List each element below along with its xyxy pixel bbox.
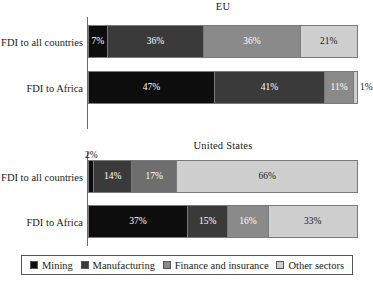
segment-value-label: 37%	[129, 217, 146, 227]
panel-title-united-states: United States	[88, 140, 358, 151]
legend-label-manufacturing: Manufacturing	[93, 260, 155, 271]
segment-value-label: 36%	[243, 37, 260, 47]
segment-value-label: 66%	[258, 172, 275, 182]
panel-eu: EU FDI to all countries 7% 36% 36% 21%	[0, 0, 371, 140]
segment-value-label: 17%	[145, 172, 162, 182]
legend-item-finance-and-insurance[interactable]: Finance and insurance	[163, 260, 269, 271]
segment-value-label: 1%	[360, 83, 373, 93]
segment-manufacturing[interactable]: 36%	[108, 26, 204, 57]
category-label-eu-africa: FDI to Africa	[26, 72, 89, 105]
segment-value-label: 33%	[304, 217, 321, 227]
segment-value-label: 21%	[320, 37, 337, 47]
segment-finance-and-insurance[interactable]: 17%	[132, 161, 178, 192]
segment-value-label: 2%	[85, 151, 98, 161]
segment-value-label: 7%	[92, 37, 105, 47]
segment-manufacturing[interactable]: 41%	[215, 72, 325, 103]
panel-united-states: United States FDI to all countries 2% 14…	[0, 140, 371, 245]
segment-mining[interactable]: 7%	[89, 26, 108, 57]
segment-mining[interactable]: 47%	[89, 72, 215, 103]
legend-item-mining[interactable]: Mining	[30, 260, 73, 271]
category-label-us-africa: FDI to Africa	[26, 206, 89, 239]
bar-row-eu-all-countries: FDI to all countries 7% 36% 36% 21%	[0, 25, 371, 58]
legend-item-manufacturing[interactable]: Manufacturing	[81, 260, 155, 271]
category-label-us-all-countries: FDI to all countries	[1, 161, 89, 194]
segment-manufacturing[interactable]: 14%	[94, 161, 132, 192]
segment-value-label: 47%	[143, 83, 160, 93]
panel-title-eu: EU	[88, 1, 358, 12]
bar-us-all-countries[interactable]: FDI to all countries 2% 14% 17% 66%	[88, 160, 358, 193]
bar-us-africa[interactable]: FDI to Africa 37% 15% 16% 33%	[88, 205, 358, 238]
bar-row-eu-africa: FDI to Africa 47% 41% 11% 1%	[0, 71, 371, 104]
segment-other-sectors[interactable]: 21%	[301, 26, 357, 57]
legend-label-mining: Mining	[42, 260, 73, 271]
legend-swatch-other-sectors-icon	[276, 261, 284, 269]
segment-value-label: 14%	[104, 172, 121, 182]
segment-manufacturing[interactable]: 15%	[188, 206, 228, 237]
segment-value-label: 15%	[199, 217, 216, 227]
bar-eu-all-countries[interactable]: FDI to all countries 7% 36% 36% 21%	[88, 25, 358, 58]
segment-value-label: 36%	[147, 37, 164, 47]
segment-finance-and-insurance[interactable]: 11%	[325, 72, 354, 103]
segment-finance-and-insurance[interactable]: 36%	[204, 26, 300, 57]
segment-other-sectors[interactable]: 33%	[269, 206, 357, 237]
segment-value-label: 11%	[331, 83, 348, 93]
segment-finance-and-insurance[interactable]: 16%	[228, 206, 268, 237]
segment-other-sectors[interactable]: 66%	[177, 161, 357, 192]
category-label-eu-all-countries: FDI to all countries	[1, 26, 89, 59]
legend-swatch-manufacturing-icon	[81, 261, 89, 269]
segment-value-label: 41%	[261, 83, 278, 93]
bar-eu-africa[interactable]: FDI to Africa 47% 41% 11% 1%	[88, 71, 358, 104]
segment-mining[interactable]: 37%	[89, 206, 188, 237]
segment-other-sectors[interactable]: 1%	[354, 72, 357, 103]
legend-swatch-mining-icon	[30, 261, 38, 269]
legend-label-finance-and-insurance: Finance and insurance	[175, 260, 269, 271]
legend-label-other-sectors: Other sectors	[288, 260, 344, 271]
legend-item-other-sectors[interactable]: Other sectors	[276, 260, 344, 271]
bar-row-us-africa: FDI to Africa 37% 15% 16% 33%	[0, 205, 371, 238]
bar-row-us-all-countries: FDI to all countries 2% 14% 17% 66%	[0, 160, 371, 193]
chart-legend: Mining Manufacturing Finance and insuran…	[21, 255, 353, 275]
segment-value-label: 16%	[239, 217, 256, 227]
legend-swatch-finance-and-insurance-icon	[163, 261, 171, 269]
